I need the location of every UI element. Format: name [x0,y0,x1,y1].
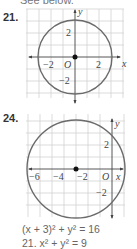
answer-21-equation: 21. x² + y² = 9 [22,237,87,249]
equation-text: (x + 3)² + y² = 16 [22,223,100,235]
svg-text:−2: −2 [43,59,54,70]
svg-text:−2: −2 [59,75,70,86]
svg-text:x: x [121,58,127,69]
svg-text:−4: −4 [53,171,64,182]
svg-text:O: O [64,59,71,70]
svg-text:y: y [77,6,83,17]
svg-text:x: x [115,171,121,182]
svg-text:−2: −2 [96,187,107,198]
graph-24: y x O 2 −6 −4 −2 −2 [0,110,137,222]
svg-text:−6: −6 [29,171,40,182]
svg-text:2: 2 [66,27,71,38]
equation-text: 21. x² + y² = 9 [22,237,87,249]
svg-text:y: y [114,118,120,129]
svg-text:−2: −2 [77,171,88,182]
svg-text:2: 2 [104,139,109,150]
svg-text:O: O [102,171,109,182]
answer-24-equation: (x + 3)² + y² = 16 [22,223,100,235]
graph-21: y x O 2 −2 2 −2 [0,0,137,105]
svg-text:2: 2 [96,59,101,70]
